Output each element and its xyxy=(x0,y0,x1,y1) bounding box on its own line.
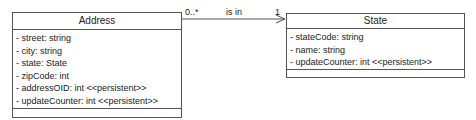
attribute: - street: string xyxy=(16,32,181,45)
attribute-compartment: - stateCode: string - name: string - upd… xyxy=(287,29,464,70)
attribute: - state: State xyxy=(16,57,181,70)
attribute-compartment: - street: string - city: string - state:… xyxy=(13,30,181,109)
attribute: - updateCounter: int <<persistent>> xyxy=(290,56,464,69)
attribute: - zipCode: int xyxy=(16,70,181,83)
class-name: State xyxy=(287,14,464,29)
class-address[interactable]: Address - street: string - city: string … xyxy=(12,12,182,118)
source-multiplicity: 0..* xyxy=(185,7,199,17)
association-label: is in xyxy=(226,7,242,17)
class-name: Address xyxy=(13,13,181,30)
class-state[interactable]: State - stateCode: string - name: string… xyxy=(286,13,465,78)
attribute: - updateCounter: int <<persistent>> xyxy=(16,95,181,108)
target-multiplicity: 1 xyxy=(275,7,280,17)
attribute: - name: string xyxy=(290,44,464,57)
attribute: - stateCode: string xyxy=(290,31,464,44)
attribute: - addressOID: int <<persistent>> xyxy=(16,82,181,95)
attribute: - city: string xyxy=(16,45,181,58)
